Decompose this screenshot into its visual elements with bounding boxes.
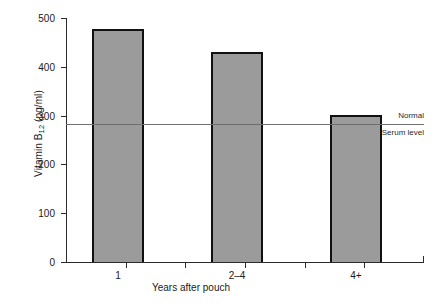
chart-container: Vitamin B12 (pg/ml) Years after pouch 0 … [0,0,439,308]
x-tick-label-1: 1 [115,270,121,281]
y-tick-label-100: 100 [38,208,55,219]
x-tick-1 [126,262,127,268]
bar-category-4-plus [330,115,382,262]
y-tick-100: 100 [61,213,67,214]
x-axis-end-cap [423,256,424,263]
y-tick-label-400: 400 [38,61,55,72]
x-tick-5 [364,262,365,268]
y-axis-label-subscript: 12 [37,125,46,134]
x-tick-2 [185,262,186,268]
y-axis-line [66,18,67,262]
y-tick-400: 400 [61,67,67,68]
y-axis-label-text: Vitamin B [33,133,44,177]
normal-serum-level-line [66,124,424,125]
x-tick-4 [305,262,306,268]
x-tick-3 [245,262,246,268]
y-tick-200: 200 [61,164,67,165]
plot-area: 0 100 200 300 400 500 1 2–4 4+ [66,18,424,262]
y-tick-0: 0 [61,262,67,263]
x-tick-label-2-4: 2–4 [229,270,246,281]
y-tick-label-300: 300 [38,110,55,121]
y-tick-300: 300 [61,116,67,117]
x-axis-label: Years after pouch [66,282,316,293]
y-tick-label-0: 0 [49,257,55,268]
bar-category-2-4 [211,52,263,262]
serum-level-label: Serum level [382,128,424,137]
y-tick-label-200: 200 [38,159,55,170]
normal-label: Normal [398,111,424,120]
bar-category-1 [92,29,144,262]
y-tick-500: 500 [61,18,67,19]
x-tick-label-4-plus: 4+ [350,270,361,281]
y-tick-label-500: 500 [38,13,55,24]
